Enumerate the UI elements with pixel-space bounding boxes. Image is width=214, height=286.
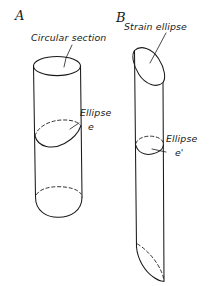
leader-ellipse-e	[70, 123, 79, 129]
panel-b: B Strain ellipse Ellipse e'	[115, 10, 197, 281]
cylinder-a-ellipse-e-front	[35, 126, 81, 147]
cylinder-b-left-wall	[135, 51, 137, 248]
label-ellipse-e-prime-symbol: e'	[175, 147, 183, 158]
cylinder-a-left-wall	[34, 66, 36, 197]
cylinder-a-right-wall	[81, 66, 83, 197]
cylinder-a-base-front	[36, 197, 83, 217]
label-circular-section: Circular section	[31, 32, 106, 43]
cylinder-b-strain-ellipse	[133, 48, 165, 86]
label-ellipse-e-prime: Ellipse	[166, 133, 197, 144]
figure-diagram: A Circular section Ellipse e B	[0, 0, 214, 286]
panel-a: A Circular section Ellipse e	[14, 8, 111, 217]
leader-circular-section	[64, 45, 72, 67]
cylinder-b-ellipse-e-prime-back	[136, 136, 164, 143]
panel-a-letter: A	[14, 8, 24, 23]
cylinder-b-base-front	[137, 247, 165, 281]
cylinder-a-circular-section	[34, 56, 81, 75]
cylinder-b-right-wall	[163, 83, 164, 282]
cylinder-b-ellipse-e-prime-front	[136, 145, 164, 154]
diagram-canvas: A Circular section Ellipse e B	[0, 0, 214, 286]
label-ellipse-e-symbol: e	[88, 121, 94, 132]
cylinder-a-base-back	[37, 187, 82, 195]
cylinder-a-ellipse-e-back	[35, 120, 81, 136]
label-strain-ellipse: Strain ellipse	[124, 21, 187, 32]
cylinder-b-base-back	[138, 244, 164, 280]
label-ellipse-e: Ellipse	[80, 107, 111, 118]
